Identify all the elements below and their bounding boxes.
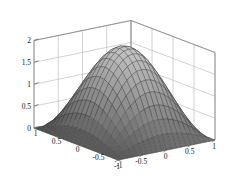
tick-label: 0.5	[52, 137, 62, 146]
tick-label: 0	[76, 145, 80, 154]
tick-label: 0.5	[22, 102, 32, 111]
tick-label: 1	[212, 142, 216, 151]
tick-label: 1.5	[22, 58, 32, 67]
tick-label: -1	[114, 162, 120, 171]
tick-label: 0	[164, 152, 168, 161]
tick-label: 1	[27, 80, 31, 89]
surface-plot-canvas: 00.511.52-1-0.500.51-1-0.500.51	[0, 0, 228, 183]
tick-label: -0.5	[93, 153, 105, 162]
tick-label: 2	[27, 36, 31, 45]
tick-label: -0.5	[135, 157, 147, 166]
surface-plot-figure: 00.511.52-1-0.500.51-1-0.500.51	[0, 0, 228, 183]
tick-label: 0.5	[185, 147, 195, 156]
tick-label: 1	[34, 129, 38, 138]
tick-label: 0	[27, 124, 31, 133]
